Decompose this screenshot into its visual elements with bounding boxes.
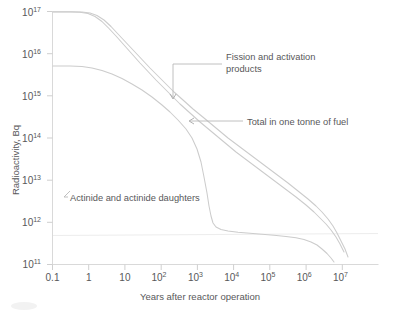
x-ticklabel-1e3: 103 xyxy=(188,271,203,283)
x-ticklabel-1: 1 xyxy=(86,272,92,283)
x-ticklabel-1e2: 102 xyxy=(151,271,166,283)
radioactivity-decay-chart: 1011 1012 1013 1014 1015 1016 1017 0.1 1… xyxy=(0,0,393,311)
y-ticklabel-1e14: 1014 xyxy=(22,132,41,144)
y-axis-title: Radioactivity, Bq xyxy=(10,125,21,195)
fission-annotation: Fission and activation products xyxy=(170,52,315,99)
y-axis-tick-labels: 1011 1012 1013 1014 1015 1016 1017 xyxy=(22,6,41,271)
actinide-annotation: Actinide and actinide daughters xyxy=(64,191,200,203)
gridline-1e12 xyxy=(53,234,378,236)
y-ticklabel-1e16: 1016 xyxy=(22,48,41,60)
x-ticklabel-1e6: 106 xyxy=(297,271,312,283)
fission-annotation-label-line1: Fission and activation xyxy=(226,52,315,62)
x-ticklabel-10: 10 xyxy=(119,272,131,283)
x-ticklabel-1e5: 105 xyxy=(260,271,275,283)
x-axis-ticks xyxy=(53,265,343,271)
scan-artifact xyxy=(11,302,37,310)
fission-annotation-label-line2: products xyxy=(226,64,262,74)
actinide-annotation-label: Actinide and actinide daughters xyxy=(70,193,200,203)
x-ticklabel-1e4: 104 xyxy=(224,271,239,283)
curve-total-in-one-tonne-of-fuel xyxy=(53,12,348,257)
curve-actinide-and-actinide-daughters xyxy=(53,66,334,262)
y-ticklabel-1e17: 1017 xyxy=(22,6,41,18)
y-ticklabel-1e13: 1013 xyxy=(22,174,41,186)
y-ticklabel-1e15: 1015 xyxy=(22,90,41,102)
chart-svg: 1011 1012 1013 1014 1015 1016 1017 0.1 1… xyxy=(0,0,393,311)
x-ticklabel-1e7: 107 xyxy=(333,271,348,283)
x-ticklabel-0.1: 0.1 xyxy=(46,272,60,283)
curve-fission-and-activation-products xyxy=(53,12,344,252)
total-annotation-label: Total in one tonne of fuel xyxy=(247,117,348,127)
y-ticklabel-1e12: 1012 xyxy=(22,216,41,228)
plot-gridlines xyxy=(53,234,378,236)
y-ticklabel-1e11: 1011 xyxy=(23,258,41,270)
x-axis-tick-labels: 0.1 1 10 102 103 104 105 106 107 xyxy=(46,271,348,283)
fission-leader-line xyxy=(173,64,222,98)
y-axis-ticks xyxy=(47,12,53,265)
x-axis-title: Years after reactor operation xyxy=(140,291,260,302)
